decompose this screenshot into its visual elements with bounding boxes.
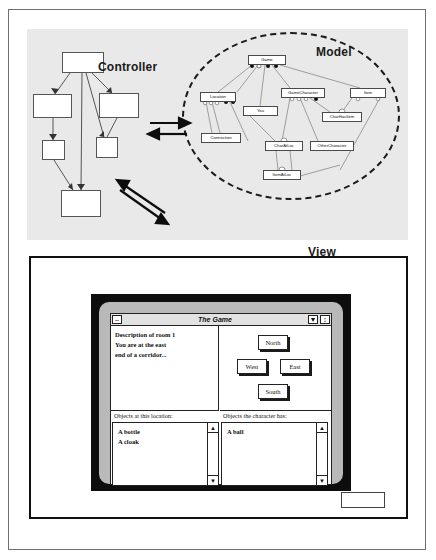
model-node-charhasitem: CharHasItem: [322, 112, 362, 122]
character-objects-list[interactable]: A ball ▲ ▼: [221, 422, 328, 486]
resize-icon[interactable]: ↕: [320, 315, 330, 324]
list-item[interactable]: A ball: [227, 427, 316, 437]
list-item[interactable]: A cloak: [118, 437, 207, 447]
description-line-3: end of a corridor...: [115, 350, 214, 360]
window-titlebar: – The Game ▼ ↕: [111, 314, 331, 326]
location-objects-list[interactable]: A bottle A cloak ▲ ▼: [112, 422, 219, 486]
minimize-icon[interactable]: –: [112, 315, 122, 324]
window-body: Description of room 1 You are at the eas…: [111, 326, 331, 486]
model-node-item: Item: [350, 88, 386, 98]
controller-box-4: [42, 140, 65, 160]
chevron-down-icon[interactable]: ▼: [308, 315, 318, 324]
west-button[interactable]: West: [237, 359, 267, 374]
model-node-gamecharacter: GameCharacter: [281, 88, 325, 98]
monitor-screen: – The Game ▼ ↕ Description of room 1 You…: [99, 302, 343, 484]
description-line-2: You are at the east: [115, 340, 214, 350]
scroll-up-icon[interactable]: ▲: [317, 423, 327, 433]
model-node-othercharacter: OtherCharacter: [310, 141, 354, 151]
model-node-location: Location: [200, 92, 236, 102]
model-label: Model: [316, 45, 352, 59]
game-window: – The Game ▼ ↕ Description of room 1 You…: [110, 313, 332, 485]
east-button[interactable]: East: [280, 359, 310, 374]
character-list-items: A ball: [222, 423, 316, 485]
location-list-scrollbar[interactable]: ▲ ▼: [207, 423, 218, 485]
navigation-pane: North West East South: [220, 326, 331, 411]
scroll-down-icon[interactable]: ▼: [208, 475, 218, 485]
list-item[interactable]: A bottle: [118, 427, 207, 437]
model-node-game: Game: [248, 55, 286, 65]
scroll-up-icon[interactable]: ▲: [208, 423, 218, 433]
window-title: The Game: [123, 316, 307, 323]
character-list-scrollbar[interactable]: ▲ ▼: [316, 423, 327, 485]
model-node-connection: Connection: [201, 133, 241, 143]
model-node-you: You: [243, 106, 278, 116]
monitor-bezel: – The Game ▼ ↕ Description of room 1 You…: [91, 294, 351, 491]
model-node-itematloc: ItemAtLoc: [263, 170, 301, 180]
location-list-header: Objects at this location:: [114, 412, 173, 419]
controller-box-2: [33, 94, 72, 118]
controller-box-6: [61, 190, 101, 217]
model-node-charatloc: CharAtLoc: [265, 141, 303, 151]
character-list-header: Objects the character has:: [223, 412, 287, 419]
controller-box-5: [96, 137, 118, 158]
room-description-pane: Description of room 1 You are at the eas…: [111, 326, 219, 411]
controller-box-3: [99, 93, 139, 118]
page-root: Controller Model View GameLocationGameCh…: [0, 0, 436, 560]
north-button[interactable]: North: [258, 335, 288, 350]
location-list-items: A bottle A cloak: [113, 423, 207, 485]
scroll-down-icon[interactable]: ▼: [317, 475, 327, 485]
controller-label: Controller: [98, 60, 157, 74]
bottom-right-box: [341, 492, 385, 508]
south-button[interactable]: South: [258, 384, 288, 399]
description-line-1: Description of room 1: [115, 330, 214, 340]
view-container: – The Game ▼ ↕ Description of room 1 You…: [29, 256, 408, 519]
